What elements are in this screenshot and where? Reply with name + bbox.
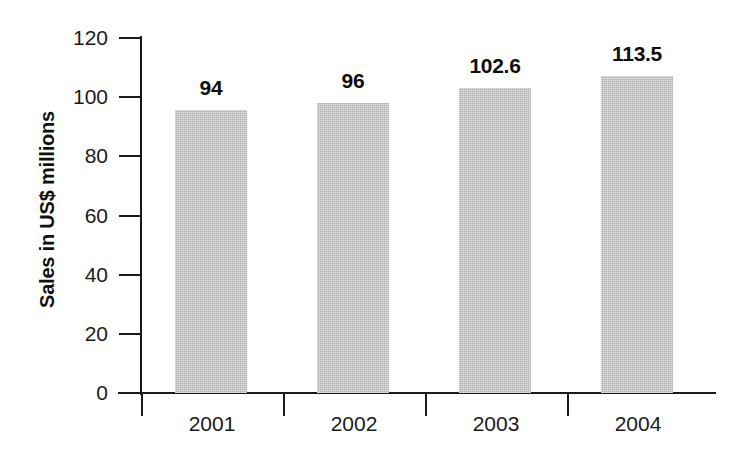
y-axis-tick-label: 40 [0,263,108,287]
y-axis-tick-label: 120 [0,26,108,50]
y-axis-tick-label: 100 [0,85,108,109]
y-axis-tick-label: 60 [0,204,108,228]
bar [175,110,247,393]
y-axis-tick-label: 80 [0,144,108,168]
y-axis-tick-label: 0 [0,381,108,405]
bar-value-label: 94 [145,76,277,100]
y-axis-tick [119,155,141,157]
x-axis-category-label: 2003 [415,412,577,436]
bar-value-label: 96 [287,69,419,93]
bar [601,76,673,393]
y-axis-tick [119,96,141,98]
bar-value-label: 113.5 [571,42,703,66]
y-axis-tick [119,215,141,217]
y-axis-tick [119,37,141,39]
x-axis-category-label: 2002 [273,412,435,436]
y-axis-tick [119,392,141,394]
x-axis-category-label: 2004 [557,412,719,436]
bar-value-label: 102.6 [429,54,561,78]
bar [317,103,389,393]
bar-chart: Sales in US$ millions 020406080100120 94… [0,0,747,472]
x-axis-category-label: 2001 [131,412,293,436]
y-axis-tick [119,333,141,335]
y-axis-tick [119,274,141,276]
y-axis-tick-label: 20 [0,322,108,346]
bar [459,88,531,393]
